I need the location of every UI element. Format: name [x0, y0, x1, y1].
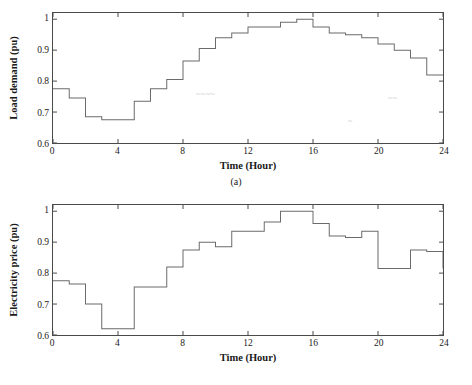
- plot-area-b: [52, 204, 444, 336]
- figure-container: Load demand (pu) 0.60.70.80.91 048121620…: [0, 0, 472, 385]
- y-tick-label: 0.8: [19, 268, 49, 278]
- y-axis-ticks-a: 0.60.70.80.91: [18, 12, 49, 144]
- electricity-price-step-plot: [53, 205, 443, 335]
- y-tick-label: 0.7: [19, 108, 49, 118]
- x-axis-ticks-a: 04812162024: [52, 146, 444, 159]
- x-tick-label: 0: [37, 146, 67, 156]
- chart-panel-b: Electricity price (pu) 0.60.70.80.91 048…: [0, 196, 472, 385]
- load-demand-step-plot: [53, 13, 443, 143]
- y-axis-label-text-b: Electricity price (pu): [8, 223, 19, 316]
- x-tick-label: 24: [429, 146, 459, 156]
- x-tick-label: 4: [102, 146, 132, 156]
- y-tick-label: 0.7: [19, 300, 49, 310]
- y-tick-label: 1: [19, 205, 49, 215]
- y-tick-label: 1: [19, 13, 49, 23]
- x-tick-label: 8: [168, 146, 198, 156]
- x-tick-label: 16: [298, 338, 328, 348]
- data-series-line: [53, 211, 443, 329]
- x-tick-label: 16: [298, 146, 328, 156]
- y-tick-label: 0.9: [19, 237, 49, 247]
- panel-caption-a: (a): [0, 176, 472, 187]
- y-axis-label-text-a: Load demand (pu): [8, 36, 19, 119]
- x-axis-label-b: Time (Hour): [52, 352, 444, 363]
- plot-area-a: [52, 12, 444, 144]
- y-axis-ticks-b: 0.60.70.80.91: [18, 204, 49, 336]
- x-tick-label: 24: [429, 338, 459, 348]
- x-tick-label: 12: [233, 146, 263, 156]
- x-tick-label: 8: [168, 338, 198, 348]
- data-series-line: [53, 19, 443, 120]
- x-axis-label-a: Time (Hour): [52, 160, 444, 171]
- x-tick-label: 12: [233, 338, 263, 348]
- y-tick-label: 0.8: [19, 76, 49, 86]
- x-tick-label: 20: [364, 146, 394, 156]
- x-axis-ticks-b: 04812162024: [52, 338, 444, 351]
- y-tick-label: 0.9: [19, 45, 49, 55]
- chart-panel-a: Load demand (pu) 0.60.70.80.91 048121620…: [0, 4, 472, 194]
- x-tick-label: 0: [37, 338, 67, 348]
- x-tick-label: 4: [102, 338, 132, 348]
- x-tick-label: 20: [364, 338, 394, 348]
